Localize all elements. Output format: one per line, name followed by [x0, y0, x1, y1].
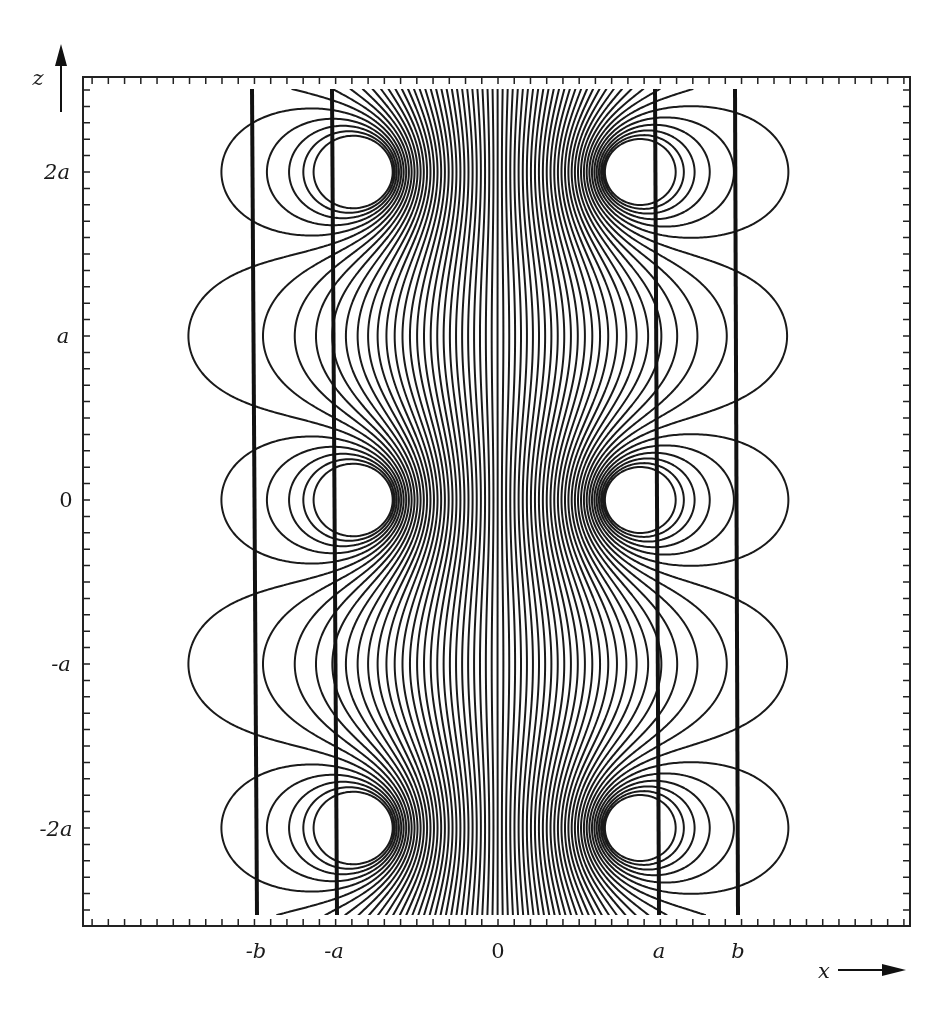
x-tick-label-a: a — [653, 941, 666, 962]
z-tick-label-2a: 2a — [44, 162, 70, 183]
z-axis-label: z — [32, 68, 43, 89]
x-axis-label: x — [818, 961, 830, 982]
contour-figure: z x 2a a 0 -a -2a -b -a 0 a b — [0, 0, 949, 1018]
x-tick-label-neg-a: -a — [324, 941, 344, 962]
z-tick-label-0: 0 — [59, 490, 72, 511]
x-tick-label-neg-b: -b — [246, 941, 267, 962]
x-tick-label-b: b — [731, 941, 744, 962]
z-tick-label-a: a — [57, 326, 70, 347]
z-tick-label-neg-a: -a — [51, 654, 71, 675]
contour-plot-canvas — [0, 0, 949, 1018]
z-tick-label-neg-2a: -2a — [40, 819, 73, 840]
x-tick-label-0: 0 — [491, 941, 504, 962]
